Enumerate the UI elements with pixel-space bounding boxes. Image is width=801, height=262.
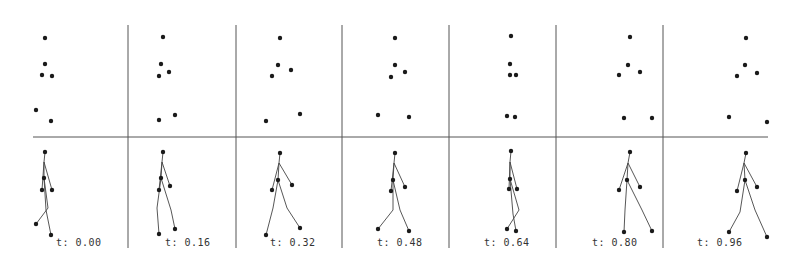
limb-segment — [161, 178, 171, 210]
joint-dot — [161, 150, 165, 154]
marker-dot — [49, 119, 53, 123]
limb-segment — [157, 178, 161, 208]
joint-dot — [298, 226, 302, 230]
marker-dot — [755, 71, 759, 75]
marker-dot — [626, 63, 630, 67]
limb-segment — [642, 210, 652, 231]
time-label: t: 0.96 — [697, 237, 743, 248]
joint-dot — [625, 178, 629, 182]
joint-dot — [34, 222, 38, 226]
marker-dot — [744, 36, 748, 40]
joint-dot — [270, 188, 274, 192]
marker-dot — [264, 119, 268, 123]
joint-dot — [278, 151, 282, 155]
joint-dot — [650, 229, 654, 233]
marker-dot — [650, 116, 654, 120]
marker-dot — [289, 68, 293, 72]
marker-dot — [727, 115, 731, 119]
marker-dot — [407, 115, 411, 119]
joint-dot — [168, 184, 172, 188]
joint-dot — [403, 185, 407, 189]
joint-dot — [407, 229, 411, 233]
joint-dot — [622, 230, 626, 234]
joint-dot — [43, 150, 47, 154]
limb-segment — [740, 180, 745, 212]
limb-segment — [394, 163, 405, 187]
joint-dot — [157, 188, 161, 192]
marker-dot — [638, 70, 642, 74]
limb-segment — [171, 210, 175, 229]
marker-dot — [505, 114, 509, 118]
joint-dot — [765, 235, 769, 239]
joint-dot — [42, 176, 46, 180]
marker-dot — [157, 118, 161, 122]
marker-dot — [628, 35, 632, 39]
joint-dot — [505, 227, 509, 231]
marker-dot — [43, 36, 47, 40]
joint-dot — [264, 233, 268, 237]
marker-dot — [403, 70, 407, 74]
joint-dot — [49, 233, 53, 237]
marker-dot — [157, 74, 161, 78]
marker-dot — [43, 62, 47, 66]
limb-segment — [278, 180, 287, 208]
limb-segment — [400, 210, 409, 231]
marker-dot — [617, 73, 621, 77]
joint-dot — [638, 185, 642, 189]
time-label: t: 0.16 — [165, 237, 211, 248]
marker-dot — [278, 36, 282, 40]
joint-dot — [743, 178, 747, 182]
limb-segment — [287, 208, 300, 228]
marker-dot — [161, 35, 165, 39]
marker-dot — [765, 120, 769, 124]
marker-dot — [508, 62, 512, 66]
joint-dot — [50, 188, 54, 192]
joint-dot — [507, 187, 511, 191]
limb-segment — [625, 180, 627, 210]
marker-dot — [376, 113, 380, 117]
marker-dot — [735, 74, 739, 78]
limb-segment — [624, 210, 625, 232]
marker-dot — [173, 113, 177, 117]
joint-dot — [159, 176, 163, 180]
joint-dot — [173, 227, 177, 231]
joint-dot — [290, 183, 294, 187]
marker-dot — [34, 108, 38, 112]
time-label: t: 0.80 — [592, 237, 638, 248]
marker-dot — [514, 73, 518, 77]
limb-segment — [266, 208, 273, 235]
marker-dot — [743, 63, 747, 67]
time-label: t: 0.64 — [484, 237, 530, 248]
limb-segment — [157, 208, 159, 234]
joint-dot — [515, 187, 519, 191]
joint-dot — [617, 188, 621, 192]
limb-segment — [509, 162, 510, 189]
joint-dot — [508, 177, 512, 181]
limb-segment — [279, 163, 292, 185]
marker-dot — [298, 112, 302, 116]
joint-dot — [755, 185, 759, 189]
marker-dot — [513, 115, 517, 119]
joint-dot — [628, 150, 632, 154]
marker-dot — [622, 116, 626, 120]
marker-dot — [276, 63, 280, 67]
limb-segment — [755, 210, 767, 237]
marker-dot — [508, 73, 512, 77]
marker-dot — [167, 70, 171, 74]
marker-dot — [270, 74, 274, 78]
joint-dot — [393, 151, 397, 155]
joint-dot — [744, 151, 748, 155]
joint-dot — [157, 232, 161, 236]
walker-figure — [0, 0, 801, 262]
joint-dot — [509, 149, 513, 153]
joint-dot — [276, 178, 280, 182]
joint-dot — [514, 229, 518, 233]
joint-dot — [40, 188, 44, 192]
time-label: t: 0.00 — [56, 237, 102, 248]
marker-dot — [159, 62, 163, 66]
limb-segment — [628, 163, 640, 187]
marker-dot — [40, 73, 44, 77]
marker-dot — [389, 75, 393, 79]
time-label: t: 0.32 — [270, 237, 316, 248]
joint-dot — [735, 189, 739, 193]
